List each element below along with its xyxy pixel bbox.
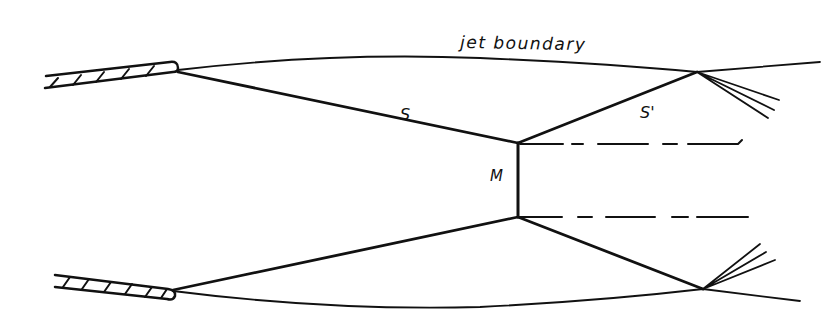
- upper-jet-boundary: [178, 57, 820, 73]
- incident-shock-label: S: [400, 105, 410, 124]
- incident-shock-upper: [178, 72, 518, 143]
- jet-boundary-label: jet boundary: [458, 32, 587, 54]
- jet-shock-diagram: jet boundary S S' M: [0, 0, 839, 331]
- lower-expansion-fan: [703, 244, 775, 289]
- reflected-shock-upper: [518, 72, 697, 143]
- mach-disk-label: M: [490, 167, 503, 185]
- reflected-shock-label: S': [640, 103, 655, 122]
- slip-lines: [520, 140, 748, 217]
- upper-nozzle-lip: [45, 62, 178, 88]
- lower-jet-boundary: [173, 289, 800, 308]
- incident-shock-lower: [173, 217, 518, 290]
- upper-expansion-fan: [697, 72, 779, 118]
- reflected-shock-lower: [518, 217, 703, 289]
- lower-nozzle-lip: [55, 275, 175, 300]
